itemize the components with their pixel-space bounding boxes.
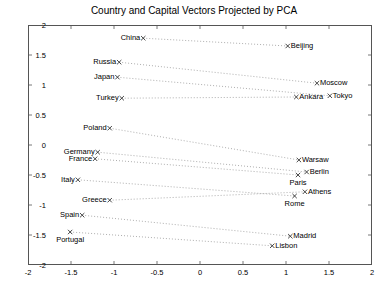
y-tick-label: -1 (24, 201, 46, 210)
marker-x (108, 198, 112, 202)
x-tick-label: -0.5 (151, 268, 164, 277)
y-tick-label: -0.5 (24, 171, 46, 180)
marker-x (76, 178, 80, 182)
y-tick-label: 1 (24, 81, 46, 90)
country-label: Turkey (96, 94, 119, 102)
marker-x (286, 44, 290, 48)
capital-label: Tokyo (333, 92, 353, 100)
marker-x (117, 60, 121, 64)
marker-x (304, 170, 308, 174)
x-tick-label: 1 (284, 268, 288, 277)
y-tick-label: 0 (24, 141, 46, 150)
country-label: Italy (61, 176, 75, 184)
x-tick-label: 1.5 (324, 268, 334, 277)
country-label: Spain (60, 211, 79, 219)
x-tick-label: -1 (111, 268, 118, 277)
capital-label: Moscow (320, 79, 348, 87)
capital-label: Athens (308, 188, 331, 196)
x-tick-label: 0.5 (238, 268, 248, 277)
marker-x (328, 94, 332, 98)
capital-label: Lisbon (275, 242, 297, 250)
country-label: Poland (83, 124, 106, 132)
marker-x (292, 194, 296, 198)
chart-canvas (0, 0, 388, 294)
data-markers (68, 36, 332, 248)
country-label: Portugal (56, 236, 84, 244)
y-tick-label: -1.5 (24, 231, 46, 240)
capital-label: Paris (289, 179, 306, 187)
capital-label: Berlin (310, 168, 329, 176)
marker-x (120, 96, 124, 100)
capital-label: Ankara (299, 93, 323, 101)
marker-x (95, 150, 99, 154)
country-label: Russia (93, 58, 116, 66)
marker-x (93, 157, 97, 161)
marker-x (297, 158, 301, 162)
connector-lines (70, 38, 330, 246)
marker-x (115, 75, 119, 79)
capital-label: Warsaw (302, 156, 329, 164)
x-tick-label: -1.5 (65, 268, 78, 277)
marker-x (108, 126, 112, 130)
y-tick-label: 1.5 (24, 51, 46, 60)
country-label: France (69, 155, 92, 163)
marker-x (141, 36, 145, 40)
marker-x (303, 190, 307, 194)
pca-figure: Country and Capital Vectors Projected by… (0, 0, 388, 294)
y-tick-label: -2 (24, 261, 46, 270)
country-label: Greece (82, 196, 107, 204)
marker-x (296, 173, 300, 177)
marker-x (294, 95, 298, 99)
capital-label: Madrid (293, 232, 316, 240)
axis-ticks (28, 25, 372, 265)
x-tick-label: 0 (198, 268, 202, 277)
country-label: China (121, 34, 141, 42)
capital-label: Beijing (291, 42, 314, 50)
y-tick-label: 0.5 (24, 111, 46, 120)
marker-x (80, 213, 84, 217)
x-tick-label: 2 (370, 268, 374, 277)
country-label: Japan (94, 73, 114, 81)
capital-label: Rome (285, 200, 305, 208)
marker-x (315, 81, 319, 85)
y-tick-label: 2 (24, 21, 46, 30)
marker-x (68, 230, 72, 234)
